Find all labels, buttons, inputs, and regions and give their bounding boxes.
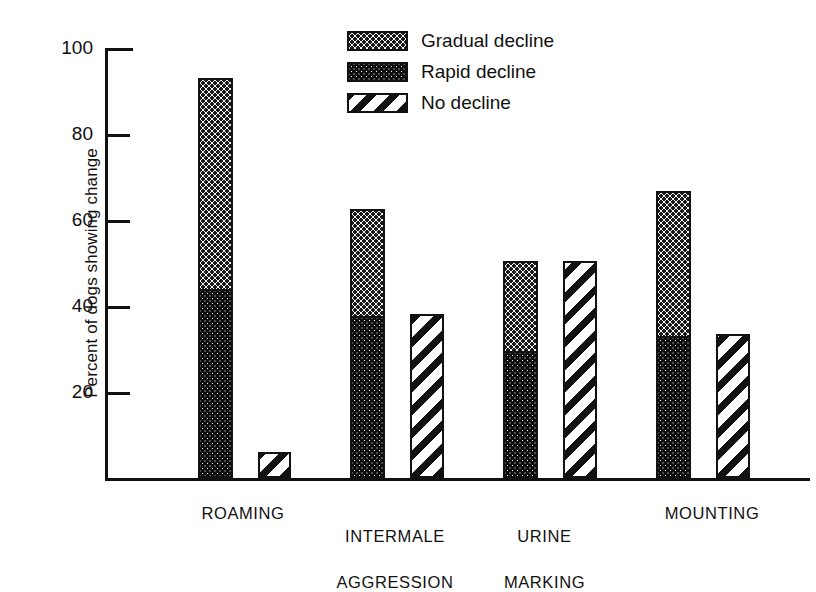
y-axis-top-stub <box>105 48 133 51</box>
legend-swatch-rapid-decline <box>347 62 408 82</box>
stacked-bar-intermale-aggression <box>350 209 385 478</box>
y-axis-line <box>105 48 108 478</box>
legend-swatch-gradual-decline <box>347 31 408 51</box>
stacked-bar-urine-marking <box>503 261 538 478</box>
y-tick-label-40: 40 <box>72 295 93 317</box>
stacked-bar-mounting <box>656 191 691 478</box>
chart-legend: Gradual decline Rapid decline No decline <box>347 26 554 119</box>
y-tick-label-80: 80 <box>72 123 93 145</box>
bar-segment-gradual-mounting <box>658 193 689 336</box>
legend-item-rapid-decline: Rapid decline <box>347 57 554 86</box>
stacked-bar-roaming <box>198 78 233 478</box>
legend-label-gradual-decline: Gradual decline <box>421 30 554 52</box>
legend-item-no-decline: No decline <box>347 88 554 117</box>
bar-segment-rapid-intermale-aggression <box>352 318 383 476</box>
x-axis-line <box>105 478 810 481</box>
y-tick-label-20: 20 <box>72 381 93 403</box>
x-category-line-1: INTERMALE <box>345 527 445 545</box>
legend-item-gradual-decline: Gradual decline <box>347 26 554 55</box>
x-category-line-2: MARKING <box>504 573 585 591</box>
bar-segment-rapid-roaming <box>200 291 231 476</box>
bar-segment-rapid-urine-marking <box>505 353 536 476</box>
no-decline-bar-intermale-aggression <box>410 314 444 478</box>
no-decline-bar-urine-marking <box>563 261 597 478</box>
bar-segment-rapid-mounting <box>658 338 689 476</box>
y-tick-label-100: 100 <box>61 37 93 59</box>
x-category-line-2: AGGRESSION <box>337 573 454 591</box>
legend-label-rapid-decline: Rapid decline <box>421 61 536 83</box>
bar-segment-gradual-urine-marking <box>505 263 536 351</box>
bar-segment-gradual-intermale-aggression <box>352 211 383 316</box>
x-category-label-mounting: MOUNTING <box>617 502 807 525</box>
bar-segment-gradual-roaming <box>200 80 231 289</box>
no-decline-bar-mounting <box>716 334 750 478</box>
no-decline-bar-roaming <box>258 452 291 478</box>
x-category-line-1: URINE <box>517 527 571 545</box>
y-tick-label-60: 60 <box>72 209 93 231</box>
legend-label-no-decline: No decline <box>421 92 511 114</box>
x-category-label-urine-marking: URINE MARKING <box>457 502 632 592</box>
legend-swatch-no-decline <box>347 93 408 113</box>
